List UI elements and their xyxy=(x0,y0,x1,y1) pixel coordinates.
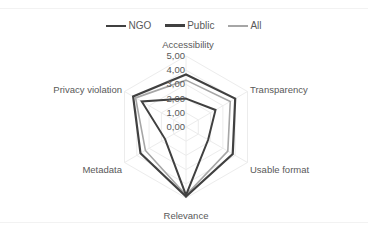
grid-spoke xyxy=(186,127,247,163)
axis-label-privacy-violation: Privacy violation xyxy=(53,84,122,95)
r-tick-label: 5,00 xyxy=(167,50,186,61)
r-tick-label: 4,00 xyxy=(167,64,186,75)
axis-label-transparency: Transparency xyxy=(250,84,308,95)
radar-plot: 0,001,002,003,004,005,00AccessibilityTra… xyxy=(0,0,368,236)
grid-spoke xyxy=(186,92,247,128)
chart-area: NGO Public All 0,001,002,003,004,005,00A… xyxy=(0,0,368,236)
grid-spoke xyxy=(125,127,186,163)
r-tick-label: 2,00 xyxy=(167,93,186,104)
axis-label-usable-format: Usable format xyxy=(250,164,309,175)
axis-label-accessibility: Accessibility xyxy=(162,39,214,50)
axis-label-metadata: Metadata xyxy=(82,164,122,175)
r-tick-label: 1,00 xyxy=(167,107,186,118)
axis-label-relevance: Relevance xyxy=(164,210,209,221)
r-tick-label: 3,00 xyxy=(167,78,186,89)
r-tick-label: 0,00 xyxy=(167,121,186,132)
